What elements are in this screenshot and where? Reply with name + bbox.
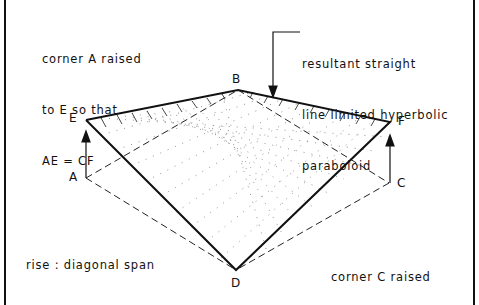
note-resultant-hypar: resultant straight line limited hyperbol… — [302, 22, 448, 192]
point-label-b: B — [232, 72, 240, 86]
leader-arrow — [269, 32, 300, 97]
note-rise-ratio: rise : diagonal span ratio should be not… — [26, 223, 155, 305]
point-label-d: D — [231, 276, 240, 290]
note-corner-c: corner C raised to F so that CF = AE — [331, 235, 431, 305]
note-corner-a: corner A raised to E so that AE = CF — [42, 17, 142, 187]
